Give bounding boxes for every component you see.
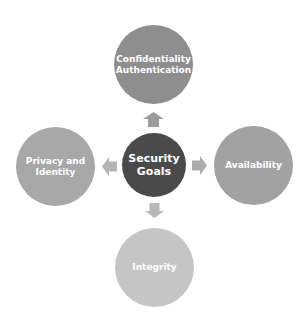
node-label-line: Privacy and [26, 156, 85, 167]
node-privacy-identity: Privacy and Identity [16, 127, 95, 206]
node-label-line: Confidentiality [116, 54, 191, 65]
node-label-line: Authentication [116, 65, 191, 76]
node-availability: Availability [214, 126, 293, 205]
node-integrity: Integrity [115, 228, 194, 307]
center-label-line: Goals [128, 165, 179, 178]
node-label-line: Integrity [132, 262, 176, 273]
arrow-left-icon [102, 157, 117, 176]
node-confidentiality-authentication: Confidentiality Authentication [114, 25, 193, 104]
node-security-goals: Security Goals [122, 133, 186, 197]
node-label-line: Identity [26, 167, 85, 178]
arrow-down-icon [145, 203, 164, 218]
arrow-right-icon [192, 156, 207, 175]
center-label-line: Security [128, 152, 179, 165]
arrow-up-icon [143, 112, 164, 127]
node-label-line: Availability [225, 160, 282, 171]
